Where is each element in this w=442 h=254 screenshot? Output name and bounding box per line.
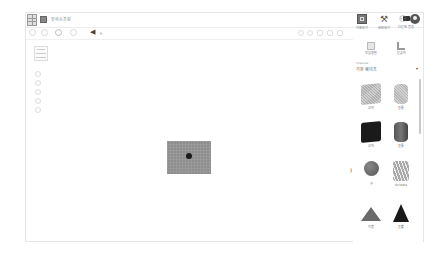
shape-cone[interactable]: 원뿔 <box>386 199 416 235</box>
redo-icon[interactable]: ▸ <box>100 29 103 36</box>
sphere-icon <box>364 161 379 176</box>
paste-icon[interactable] <box>41 29 48 36</box>
cylinder-icon <box>394 122 408 142</box>
shape-cylinder[interactable]: 원통 <box>386 119 416 155</box>
shape-cylinder-hole[interactable]: 원통 <box>386 81 416 117</box>
tab-import[interactable]: 가져오기 <box>351 13 373 39</box>
delete-icon[interactable] <box>70 29 77 36</box>
shape-grid: 상자 원통 상자 원통 구 Scribble <box>353 79 415 241</box>
shape-label: 상자 <box>356 106 386 110</box>
view-cube[interactable] <box>34 46 48 61</box>
zoom-out-icon[interactable] <box>35 98 41 104</box>
note-icon[interactable] <box>298 30 304 36</box>
shape-roof[interactable]: 지붕 <box>356 199 386 235</box>
duplicate-icon[interactable] <box>55 29 62 36</box>
roof-icon <box>361 207 381 221</box>
shape-library-select[interactable]: Tinkercad 기본 쉐이프 ▾ <box>356 62 420 74</box>
shape-label: 상자 <box>356 144 386 148</box>
app-window: 유하스프링 ◀ ▸ 가져오기 ⚒ 내보내기 다른의 전송 ⚇ <box>25 12 424 242</box>
box-icon <box>361 121 381 143</box>
home-view-icon[interactable] <box>35 71 41 77</box>
shape-label: 원통 <box>386 106 416 110</box>
tinkercad-logo[interactable] <box>27 14 37 26</box>
panel-scrollbar[interactable] <box>419 79 421 134</box>
design-grid-icon[interactable] <box>40 16 47 23</box>
workplane[interactable] <box>167 141 211 174</box>
align-icon[interactable] <box>327 30 333 36</box>
cone-icon <box>393 204 409 222</box>
box-hole-icon <box>361 83 381 105</box>
library-value: 기본 쉐이프 <box>356 66 420 72</box>
design-title[interactable]: 유하스프링 <box>51 16 71 22</box>
shape-sphere[interactable]: 구 <box>356 158 386 194</box>
fit-view-icon[interactable] <box>35 80 41 86</box>
cylinder-hole-icon <box>394 84 408 104</box>
tab-export-label: 내보내기 <box>373 26 395 30</box>
show-all-icon[interactable] <box>307 30 313 36</box>
invite-people-icon[interactable]: ⚇ <box>399 14 407 24</box>
workplane-icon <box>367 42 375 50</box>
tab-import-label: 가져오기 <box>351 26 373 30</box>
library-source: Tinkercad <box>356 62 420 65</box>
perspective-icon[interactable] <box>35 107 41 113</box>
mirror-icon[interactable] <box>337 30 343 36</box>
copy-icon[interactable] <box>29 29 36 36</box>
chevron-down-icon: ▾ <box>416 66 418 71</box>
tab-export[interactable]: ⚒ 내보내기 <box>373 13 395 39</box>
ruler-label: 눈금자 <box>389 51 413 55</box>
shapes-panel: 작업 평면 눈금자 Tinkercad 기본 쉐이프 ▾ 상자 원통 상자 <box>353 39 423 243</box>
collapse-panel-icon[interactable]: ) <box>350 167 352 173</box>
shape-label: 지붕 <box>356 225 386 229</box>
workplane-button[interactable]: 작업 평면 <box>359 42 383 55</box>
undo-icon[interactable]: ◀ <box>90 29 95 36</box>
group-icon[interactable] <box>317 30 323 36</box>
shape-label: 원통 <box>386 144 416 148</box>
ruler-button[interactable]: 눈금자 <box>389 42 413 55</box>
ruler-icon <box>397 42 405 50</box>
shape-object[interactable] <box>186 153 192 159</box>
scribble-icon <box>393 161 409 181</box>
workplane-label: 작업 평면 <box>359 51 383 55</box>
tab-send-to-label: 다른의 전송 <box>395 25 417 29</box>
zoom-in-icon[interactable] <box>35 89 41 95</box>
shape-label: Scribble <box>386 183 416 187</box>
grid-icon <box>357 14 367 24</box>
shape-box-hole[interactable]: 상자 <box>356 81 386 117</box>
avatar[interactable] <box>410 14 420 24</box>
shape-label: 구 <box>356 182 386 186</box>
shape-scribble[interactable]: Scribble <box>386 158 416 194</box>
shape-label: 원뿔 <box>386 225 416 229</box>
hammer-icon: ⚒ <box>379 14 389 24</box>
shape-box[interactable]: 상자 <box>356 119 386 155</box>
